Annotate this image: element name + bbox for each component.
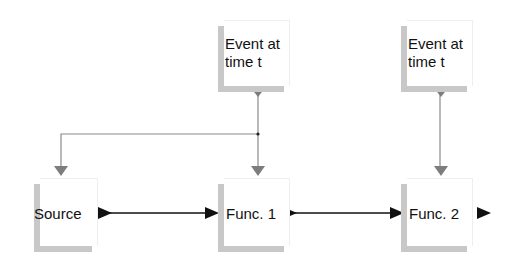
event-node-1-label: Event at time t [225,35,280,71]
event-node-2[interactable]: Event at time t [407,20,473,86]
func2-node-label: Func. 2 [409,205,459,223]
source-node[interactable]: Source [40,178,98,246]
func1-event-input-arrow-icon [251,166,265,176]
diagram-canvas: Event at time t Event at time t Source F… [0,0,521,270]
junction-dot [256,132,259,135]
func2-node[interactable]: Func. 2 [407,178,473,246]
event-node-2-label: Event at time t [408,35,463,71]
func2-event-input-arrow-icon [434,166,448,176]
source-event-input-arrow-icon [54,166,68,176]
func1-node-label: Func. 1 [226,205,276,223]
event1-to-source-line [61,134,258,168]
source-output-arrow-icon [98,207,112,219]
func1-node[interactable]: Func. 1 [224,178,290,246]
event-node-1[interactable]: Event at time t [224,20,290,86]
func2-output-arrow-icon [477,207,491,219]
source-node-label: Source [34,205,82,223]
func1-input-arrow-icon [205,207,219,219]
